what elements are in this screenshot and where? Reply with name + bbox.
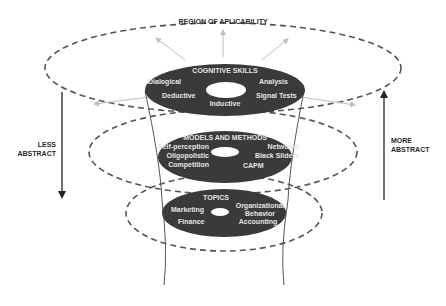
topics-item-behavior: Behavior <box>230 210 290 218</box>
topics-item-marketing: Marketing <box>171 206 204 214</box>
cognitive-item-inductive: Inductive <box>195 100 255 108</box>
cognitive-item-deductive: Deductive <box>162 92 195 100</box>
cognitive-item-analysis: Analysis <box>259 78 288 86</box>
models-item-capm: CAPM <box>243 162 264 170</box>
models-methods-title: MODELS AND METHODS <box>175 134 275 142</box>
cone-outline-right <box>283 91 304 285</box>
more-abstract-label-1: MORE <box>391 137 412 145</box>
cognitive-item-signal-tests: Signal Tests <box>256 92 297 100</box>
disc-hole-cognitive <box>206 82 246 98</box>
models-item-competition: Competition <box>150 161 209 169</box>
less-abstract-label-1: LESS <box>10 141 56 149</box>
less-abstract-label-2: ABSTRACT <box>10 150 56 158</box>
disc-hole-models <box>211 147 239 157</box>
diagram-title: REGION OF APLICABILITY <box>163 18 283 26</box>
more-abstract-label-2: ABSTRACT <box>391 146 430 154</box>
disc-hole-topics <box>211 208 229 216</box>
topics-item-finance: Finance <box>178 218 204 226</box>
less-abstract-arrow <box>58 92 66 199</box>
models-item-oligopolistic: Oligopolistic <box>150 152 209 160</box>
topics-item-organizational: Organizational <box>230 202 290 210</box>
diagram-canvas <box>0 0 446 306</box>
topics-item-accounting: Accounting <box>228 218 288 226</box>
models-item-networks: Networks <box>240 143 299 151</box>
cognitive-item-dialogical: Dialogical <box>148 78 181 86</box>
models-item-self-perception: Self-perception <box>150 143 209 151</box>
more-abstract-arrow <box>380 90 388 200</box>
topics-title: TOPICS <box>186 194 246 202</box>
models-item-black-sliders: Black Sliders <box>240 152 299 160</box>
cognitive-skills-title: COGNITIVE SKILLS <box>175 67 275 75</box>
